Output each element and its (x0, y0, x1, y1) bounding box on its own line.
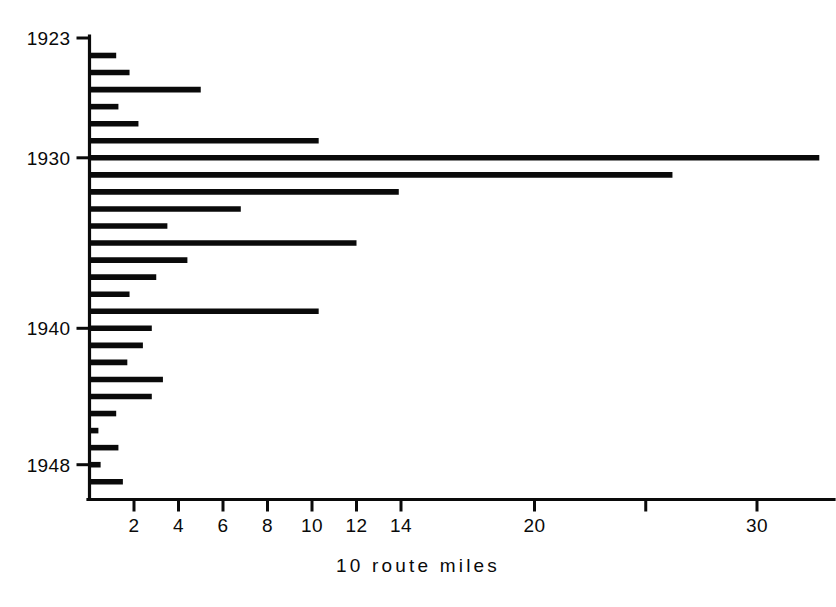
x-axis-title: 10 route miles (336, 555, 500, 576)
x-axis-tick-label: 10 (301, 515, 323, 536)
x-axis-tick-label: 6 (218, 515, 229, 536)
y-axis-tick-label: 1930 (27, 148, 71, 169)
x-axis-tick-label: 2 (129, 515, 140, 536)
x-axis-tick-label: 20 (524, 515, 546, 536)
y-axis-tick-label: 1940 (27, 318, 71, 339)
x-axis-tick-label: 14 (390, 515, 412, 536)
y-axis-ticks-group (77, 38, 90, 465)
y-axis-tick-label: 1948 (27, 455, 71, 476)
x-axis-tick-label: 12 (346, 515, 368, 536)
bar-chart-plot: 1923193019401948 24681012142030 10 route… (0, 0, 836, 607)
bars-group (90, 56, 820, 482)
chart-container: 1923193019401948 24681012142030 10 route… (0, 0, 836, 607)
x-axis-tick-label: 30 (746, 515, 768, 536)
y-axis-tick-label: 1923 (27, 28, 71, 49)
x-axis-tick-label: 8 (262, 515, 273, 536)
y-axis-labels-group: 1923193019401948 (27, 28, 71, 476)
x-axis-tick-label: 4 (173, 515, 184, 536)
x-axis-labels-group: 24681012142030 (129, 515, 768, 536)
x-axis-ticks-group (134, 500, 757, 512)
